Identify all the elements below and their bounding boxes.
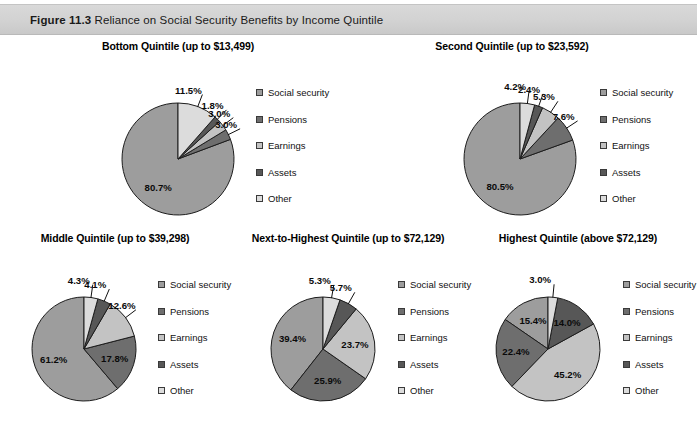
legend-swatch-icon	[256, 116, 263, 123]
legend-second-quintile: Social securityPensionsEarningsAssetsOth…	[600, 88, 673, 221]
legend-item-other[interactable]: Other	[256, 194, 329, 204]
legend-swatch-icon	[600, 116, 607, 123]
legend-label: Pensions	[612, 115, 651, 125]
legend-item-assets[interactable]: Assets	[256, 168, 329, 178]
leader-line	[348, 292, 355, 304]
pie-value-label: 5.3%	[309, 275, 331, 286]
legend-item-pensions[interactable]: Pensions	[256, 115, 329, 125]
legend-swatch-icon	[623, 281, 630, 288]
legend-item-earnings[interactable]: Earnings	[600, 141, 673, 151]
legend-swatch-icon	[600, 142, 607, 149]
legend-item-other[interactable]: Other	[158, 386, 231, 396]
legend-label: Pensions	[268, 115, 307, 125]
legend-label: Social security	[170, 280, 231, 290]
leader-line	[566, 121, 577, 128]
legend-swatch-icon	[398, 361, 405, 368]
legend-item-social-security[interactable]: Social security	[623, 280, 696, 290]
chart-title-next-to-highest-quintile: Next-to-Highest Quintile (up to $72,129)	[228, 232, 468, 244]
legend-swatch-icon	[256, 142, 263, 149]
chart-title-highest-quintile: Highest Quintile (above $72,129)	[458, 232, 697, 244]
pie-value-label: 11.5%	[175, 85, 202, 96]
pie-value-label: 80.5%	[486, 181, 514, 192]
legend-label: Earnings	[635, 333, 673, 343]
legend-swatch-icon	[256, 169, 263, 176]
pie-value-label: 1.8%	[202, 100, 224, 111]
legend-item-other[interactable]: Other	[623, 386, 696, 396]
legend-label: Social security	[268, 88, 329, 98]
legend-item-other[interactable]: Other	[600, 194, 673, 204]
legend-label: Other	[635, 386, 659, 396]
legend-swatch-icon	[600, 195, 607, 202]
legend-label: Earnings	[268, 141, 306, 151]
pie-value-label: 12.6%	[108, 300, 136, 311]
legend-label: Assets	[635, 360, 664, 370]
pie-value-label: 15.4%	[519, 315, 547, 326]
pie-value-label: 3.0%	[529, 274, 551, 285]
legend-label: Other	[410, 386, 434, 396]
legend-item-social-security[interactable]: Social security	[158, 280, 231, 290]
legend-label: Social security	[612, 88, 673, 98]
legend-bottom-quintile: Social securityPensionsEarningsAssetsOth…	[256, 88, 329, 221]
legend-label: Social security	[410, 280, 471, 290]
legend-swatch-icon	[600, 89, 607, 96]
legend-next-to-highest-quintile: Social securityPensionsEarningsAssetsOth…	[398, 280, 471, 413]
legend-label: Other	[170, 386, 194, 396]
legend-swatch-icon	[398, 308, 405, 315]
legend-label: Assets	[410, 360, 439, 370]
legend-item-pensions[interactable]: Pensions	[398, 307, 471, 317]
leader-line	[553, 284, 554, 297]
pie-value-label: 39.4%	[279, 333, 307, 344]
legend-item-pensions[interactable]: Pensions	[158, 307, 231, 317]
legend-swatch-icon	[600, 169, 607, 176]
legend-item-social-security[interactable]: Social security	[600, 88, 673, 98]
legend-item-other[interactable]: Other	[398, 386, 471, 396]
legend-label: Pensions	[170, 307, 209, 317]
legend-item-earnings[interactable]: Earnings	[398, 333, 471, 343]
legend-item-pensions[interactable]: Pensions	[623, 307, 696, 317]
legend-swatch-icon	[158, 387, 165, 394]
pie-value-label: 45.2%	[554, 369, 582, 380]
legend-swatch-icon	[158, 308, 165, 315]
legend-item-social-security[interactable]: Social security	[398, 280, 471, 290]
legend-item-assets[interactable]: Assets	[398, 360, 471, 370]
chart-title-middle-quintile: Middle Quintile (up to $39,298)	[0, 232, 230, 244]
legend-swatch-icon	[256, 195, 263, 202]
figure-banner: Figure 11.3 Reliance on Social Security …	[0, 4, 697, 35]
figure-number: Figure 11.3	[30, 14, 91, 26]
legend-item-pensions[interactable]: Pensions	[600, 115, 673, 125]
legend-item-earnings[interactable]: Earnings	[158, 333, 231, 343]
legend-swatch-icon	[398, 281, 405, 288]
pie-value-label: 3.0%	[215, 119, 237, 130]
chart-title-second-quintile: Second Quintile (up to $23,592)	[362, 40, 662, 52]
legend-item-assets[interactable]: Assets	[623, 360, 696, 370]
legend-swatch-icon	[623, 334, 630, 341]
legend-item-social-security[interactable]: Social security	[256, 88, 329, 98]
chart-title-bottom-quintile: Bottom Quintile (up to $13,499)	[28, 40, 328, 52]
legend-label: Earnings	[410, 333, 448, 343]
legend-item-earnings[interactable]: Earnings	[256, 141, 329, 151]
legend-item-assets[interactable]: Assets	[600, 168, 673, 178]
legend-item-assets[interactable]: Assets	[158, 360, 231, 370]
legend-label: Earnings	[170, 333, 208, 343]
legend-swatch-icon	[158, 334, 165, 341]
legend-item-earnings[interactable]: Earnings	[623, 333, 696, 343]
legend-swatch-icon	[398, 387, 405, 394]
legend-label: Assets	[268, 168, 297, 178]
legend-label: Earnings	[612, 141, 650, 151]
legend-swatch-icon	[256, 89, 263, 96]
pie-value-label: 14.0%	[553, 317, 581, 328]
legend-label: Other	[268, 194, 292, 204]
figure-caption: Figure 11.3 Reliance on Social Security …	[30, 14, 383, 26]
leader-line	[125, 310, 136, 318]
legend-highest-quintile: Social securityPensionsEarningsAssetsOth…	[623, 280, 696, 413]
legend-swatch-icon	[623, 308, 630, 315]
legend-middle-quintile: Social securityPensionsEarningsAssetsOth…	[158, 280, 231, 413]
pie-value-label: 4.2%	[504, 81, 526, 92]
pie-value-label: 22.4%	[502, 346, 530, 357]
figure-caption-text: Reliance on Social Security Benefits by …	[94, 14, 383, 26]
legend-swatch-icon	[623, 361, 630, 368]
pie-value-label: 80.7%	[145, 182, 173, 193]
legend-label: Assets	[612, 168, 641, 178]
pie-value-label: 61.2%	[40, 354, 68, 365]
legend-swatch-icon	[398, 334, 405, 341]
